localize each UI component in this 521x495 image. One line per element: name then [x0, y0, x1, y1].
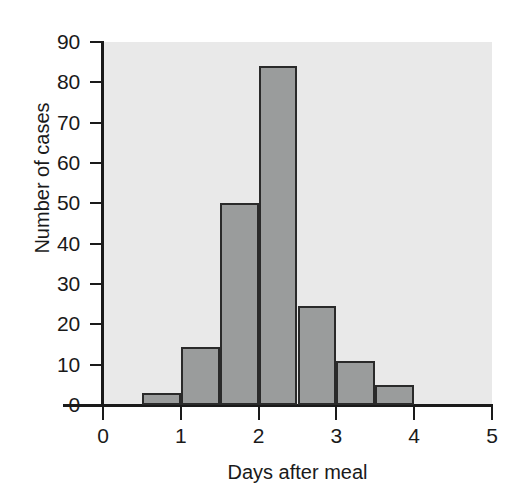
y-axis-tick-mark	[90, 364, 102, 366]
x-axis-tick-label: 2	[239, 424, 279, 448]
y-axis-title: Number of cases	[32, 58, 52, 298]
y-axis-tick-label: 10	[34, 354, 80, 375]
histogram-bar	[181, 347, 220, 405]
x-axis-tick-label: 1	[161, 424, 201, 448]
x-axis-tick-label: 3	[316, 424, 356, 448]
y-axis-tick-mark	[90, 202, 102, 204]
histogram-bar	[142, 393, 181, 405]
y-axis-tick-mark	[90, 243, 102, 245]
x-axis-title: Days after meal	[103, 461, 492, 483]
x-axis-tick-mark	[491, 407, 493, 420]
x-axis-tick-mark	[413, 407, 415, 420]
x-axis-tick-mark	[102, 407, 104, 420]
y-axis-tick-mark	[90, 283, 102, 285]
y-axis-tick-mark	[90, 323, 102, 325]
y-axis-tick-mark	[90, 122, 102, 124]
histogram-bar	[375, 385, 414, 405]
y-axis-tick-mark	[90, 41, 102, 43]
histogram-bar	[220, 203, 259, 405]
y-axis-tick-label: 90	[34, 31, 80, 52]
y-axis-tick-mark	[90, 162, 102, 164]
histogram-bar	[336, 361, 375, 405]
y-axis-tick-label: 20	[34, 313, 80, 334]
x-axis-tick-mark	[258, 407, 260, 420]
x-axis-tick-label: 4	[394, 424, 434, 448]
plot-area	[103, 42, 492, 405]
x-axis-tick-label: 5	[472, 424, 512, 448]
y-axis-tick-mark	[90, 81, 102, 83]
x-axis-tick-mark	[335, 407, 337, 420]
histogram-bar	[259, 66, 298, 405]
histogram-bar	[298, 306, 337, 405]
y-axis-tick-label: 0	[34, 394, 80, 415]
y-axis-tick-mark	[90, 404, 102, 406]
histogram-figure: 0102030405060708090 012345 Number of cas…	[0, 0, 521, 495]
y-axis-line	[101, 41, 104, 407]
x-axis-tick-label: 0	[83, 424, 123, 448]
x-axis-tick-mark	[180, 407, 182, 420]
